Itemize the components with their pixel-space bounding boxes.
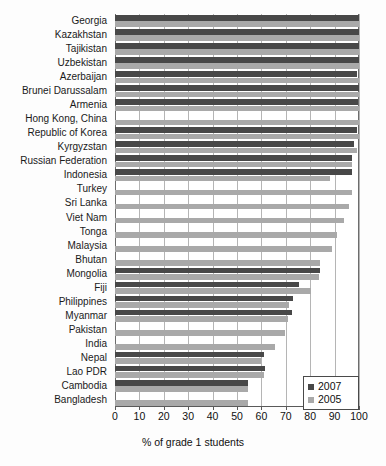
bar-2005 — [115, 49, 359, 55]
category-label: Malaysia — [68, 239, 107, 254]
bar-group — [115, 28, 358, 43]
bar-2007 — [115, 310, 292, 316]
category-label: Indonesia — [64, 168, 107, 183]
tick-label: 80 — [304, 410, 316, 422]
bar-2005 — [115, 35, 359, 41]
bar-group — [115, 140, 358, 155]
bar-group — [115, 98, 358, 113]
bar-group — [115, 253, 358, 268]
category-label: Mongolia — [66, 267, 107, 282]
legend-label-2005: 2005 — [318, 393, 341, 406]
bar-2005 — [115, 134, 359, 140]
bar-group — [115, 211, 358, 226]
legend-item-2007: 2007 — [308, 380, 354, 393]
category-label: Uzbekistan — [58, 56, 107, 71]
bar-group — [115, 112, 358, 127]
tick-label: 60 — [256, 410, 268, 422]
bar-group — [115, 126, 358, 141]
category-label: Republic of Korea — [28, 126, 108, 141]
tick-label: 90 — [329, 410, 341, 422]
legend-swatch-icon-2005 — [308, 397, 314, 403]
bar-2005 — [115, 372, 264, 378]
bar-group — [115, 182, 358, 197]
bar-2005 — [115, 330, 285, 336]
category-label: Bhutan — [75, 253, 107, 268]
bar-group — [115, 70, 358, 85]
bar-2005 — [115, 274, 319, 280]
bar-2007 — [115, 127, 357, 133]
bar-2007 — [115, 296, 293, 302]
category-label: Brunei Darussalam — [22, 84, 107, 99]
bar-2005 — [115, 78, 359, 84]
bar-group — [115, 14, 358, 29]
tick-label: 70 — [280, 410, 292, 422]
bar-group — [115, 225, 358, 240]
category-label: Fiji — [94, 281, 107, 296]
value-axis-ticks: 0102030405060708090100 — [0, 408, 386, 428]
bar-2005 — [115, 358, 261, 364]
category-label: Nepal — [81, 351, 107, 366]
plot-area — [115, 14, 359, 407]
bar-group — [115, 154, 358, 169]
category-label: Russian Federation — [20, 154, 107, 169]
bar-2005 — [115, 148, 357, 154]
category-label: Armenia — [70, 98, 107, 113]
category-label: Hong Kong, China — [25, 112, 107, 127]
bar-2005 — [115, 260, 320, 266]
bar-2005 — [115, 21, 359, 27]
category-label: Bangladesh — [54, 393, 107, 408]
bar-group — [115, 295, 358, 310]
bar-group — [115, 323, 358, 338]
bar-group — [115, 84, 358, 99]
bar-group — [115, 309, 358, 324]
category-label: Pakistan — [69, 323, 107, 338]
category-label: Myanmar — [65, 309, 107, 324]
category-label: India — [85, 337, 107, 352]
tick-label: 10 — [134, 410, 146, 422]
legend-swatch-icon-2007 — [308, 384, 314, 390]
tick-label: 0 — [112, 410, 118, 422]
bar-2007 — [115, 43, 359, 49]
tick-label: 40 — [207, 410, 219, 422]
chart-legend: 2007 2005 — [303, 376, 359, 410]
tick-label: 20 — [158, 410, 170, 422]
category-label: Kazakhstan — [55, 28, 107, 43]
tick-label: 100 — [350, 410, 368, 422]
x-axis-title: % of grade 1 students — [0, 436, 386, 448]
bar-2005 — [115, 232, 337, 238]
category-label: Sri Lanka — [65, 196, 107, 211]
category-label: Lao PDR — [66, 365, 107, 380]
bar-2007 — [115, 85, 359, 91]
bar-2007 — [115, 352, 264, 358]
bar-group — [115, 42, 358, 57]
bar-2007 — [115, 155, 352, 161]
bar-2005 — [115, 63, 359, 69]
bar-2007 — [115, 57, 359, 63]
bar-2007 — [115, 169, 352, 175]
bar-2005 — [115, 176, 330, 182]
bar-2005 — [115, 302, 289, 308]
bar-group — [115, 168, 358, 183]
bar-2007 — [115, 99, 358, 105]
bar-2005 — [115, 106, 359, 112]
bar-group — [115, 239, 358, 254]
bar-2005 — [115, 92, 359, 98]
bar-2007 — [115, 366, 265, 372]
category-axis-labels: GeorgiaKazakhstanTajikistanUzbekistanAze… — [0, 14, 111, 407]
bar-2005 — [115, 162, 352, 168]
bar-group — [115, 196, 358, 211]
bar-2007 — [115, 71, 357, 77]
bar-2005 — [115, 204, 349, 210]
bar-2007 — [115, 29, 359, 35]
bar-2005 — [115, 120, 359, 126]
category-label: Azerbaijan — [60, 70, 107, 85]
legend-item-2005: 2005 — [308, 393, 354, 406]
category-label: Georgia — [71, 14, 107, 29]
bar-2005 — [115, 246, 332, 252]
category-label: Tonga — [80, 225, 107, 240]
bar-group — [115, 56, 358, 71]
legend-label-2007: 2007 — [318, 380, 341, 393]
category-label: Kyrgyzstan — [58, 140, 107, 155]
bar-2007 — [115, 268, 320, 274]
bar-group — [115, 337, 358, 352]
